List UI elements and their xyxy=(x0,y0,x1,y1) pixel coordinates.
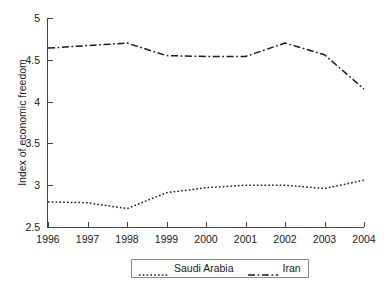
legend-entry-iran[interactable]: Iran xyxy=(248,263,301,274)
x-tick-label: 2003 xyxy=(313,233,336,245)
x-tick-label: 1996 xyxy=(36,233,59,245)
series-canvas xyxy=(48,18,364,227)
y-axis-title: Index of economic freedom xyxy=(14,18,30,227)
chart-legend: Saudi ArabiaIran xyxy=(131,259,309,278)
x-tick-label: 2002 xyxy=(273,233,296,245)
y-tick-label: 2.5 xyxy=(25,221,40,233)
y-tick-mark xyxy=(48,102,53,103)
chart-figure: Index of economic freedom 2.533.544.55 1… xyxy=(0,0,384,286)
y-tick-label: 3.5 xyxy=(25,137,40,149)
x-tick-mark xyxy=(88,222,89,227)
series-line-iran xyxy=(48,43,364,89)
plot-area: 2.533.544.55 199619971998199920002001200… xyxy=(47,18,364,228)
dash-dot-line-sample xyxy=(248,265,278,273)
x-tick-label: 1999 xyxy=(155,233,178,245)
x-tick-mark xyxy=(127,222,128,227)
x-tick-mark xyxy=(285,222,286,227)
y-tick-mark xyxy=(48,185,53,186)
y-tick-label: 5 xyxy=(34,12,40,24)
x-tick-label: 1997 xyxy=(76,233,99,245)
y-tick-mark xyxy=(48,143,53,144)
x-tick-label: 2004 xyxy=(352,233,375,245)
dotted-line-sample xyxy=(139,265,169,273)
x-tick-mark xyxy=(206,222,207,227)
y-tick-label: 4 xyxy=(34,96,40,108)
y-tick-mark xyxy=(48,60,53,61)
legend-label: Saudi Arabia xyxy=(174,263,234,274)
y-tick-mark xyxy=(48,18,53,19)
legend-entry-saudi-arabia[interactable]: Saudi Arabia xyxy=(139,263,234,274)
x-tick-mark xyxy=(167,222,168,227)
y-tick-mark xyxy=(48,227,53,228)
legend-label: Iran xyxy=(283,263,301,274)
series-line-saudi-arabia xyxy=(48,180,364,208)
x-tick-label: 1998 xyxy=(115,233,138,245)
x-tick-label: 2000 xyxy=(194,233,217,245)
x-tick-mark xyxy=(246,222,247,227)
x-tick-mark xyxy=(48,222,49,227)
x-tick-label: 2001 xyxy=(234,233,257,245)
x-tick-mark xyxy=(325,222,326,227)
y-tick-label: 3 xyxy=(34,179,40,191)
x-tick-mark xyxy=(364,222,365,227)
y-tick-label: 4.5 xyxy=(25,54,40,66)
